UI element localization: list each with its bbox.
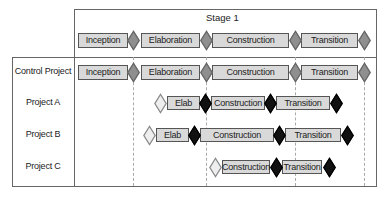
grey-milestone-diamond-icon — [289, 63, 301, 81]
phase-bar: Transition — [285, 128, 341, 142]
phase-bar: Construction — [212, 33, 289, 48]
row-label: Project C — [12, 161, 74, 171]
phase-bar: Inception — [78, 65, 128, 80]
phase-bar: Elab — [156, 128, 189, 142]
grey-milestone-diamond-icon — [200, 31, 212, 49]
phase-bar: Construction — [200, 128, 274, 142]
phase-bar: Elab — [167, 96, 200, 110]
grey-milestone-diamond-icon — [200, 63, 212, 81]
grey-milestone-diamond-icon — [358, 63, 370, 81]
row-label: Control Project — [12, 66, 74, 76]
phase-bar: Elaboration — [141, 33, 200, 48]
row-label: Project B — [12, 129, 74, 139]
phase-bar: Transition — [301, 65, 358, 80]
black-milestone-diamond-icon — [330, 94, 342, 112]
phase-bar: Transition — [282, 160, 322, 174]
black-milestone-diamond-icon — [270, 158, 282, 176]
hollow-milestone-diamond-icon — [154, 94, 166, 112]
black-milestone-diamond-icon — [273, 126, 285, 144]
header-divider — [12, 57, 377, 58]
hollow-milestone-diamond-icon — [209, 158, 221, 176]
grey-milestone-diamond-icon — [127, 63, 139, 81]
grey-milestone-diamond-icon — [289, 31, 301, 49]
phase-bar: Elaboration — [141, 65, 200, 80]
grey-milestone-diamond-icon — [358, 31, 370, 49]
black-milestone-diamond-icon — [264, 94, 276, 112]
phase-bar: Inception — [78, 33, 128, 48]
phase-bar: Transition — [301, 33, 358, 48]
phase-bar: Construction — [212, 65, 289, 80]
black-milestone-diamond-icon — [199, 94, 211, 112]
grey-milestone-diamond-icon — [127, 31, 139, 49]
black-milestone-diamond-icon — [323, 158, 335, 176]
stage-label: Stage 1 — [206, 12, 239, 23]
row-label: Project A — [12, 97, 74, 107]
phase-bar: Transition — [276, 96, 330, 110]
black-milestone-diamond-icon — [341, 126, 353, 144]
black-milestone-diamond-icon — [188, 126, 200, 144]
phase-bar: Construction — [211, 96, 265, 110]
phase-bar: Construction — [222, 160, 270, 174]
hollow-milestone-diamond-icon — [143, 126, 155, 144]
